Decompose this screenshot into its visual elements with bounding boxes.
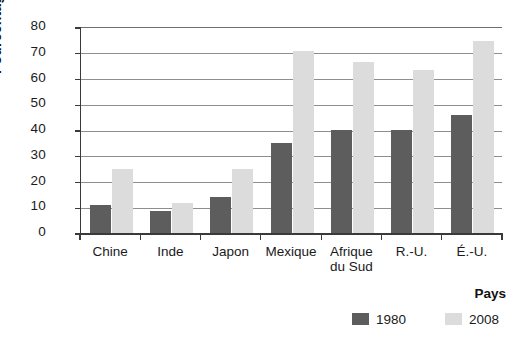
x-category-label: Japon	[201, 244, 261, 259]
x-tick	[441, 233, 442, 240]
y-tick-50	[75, 105, 81, 106]
legend-title: Pays	[474, 286, 506, 301]
y-tick-label-50: 50	[6, 95, 46, 110]
y-tick-label-20: 20	[6, 173, 46, 188]
x-tick	[79, 233, 80, 240]
y-tick-label-70: 70	[6, 44, 46, 59]
y-tick-label-0: 0	[6, 224, 46, 239]
x-category-label: R.-U.	[381, 244, 441, 259]
x-category-label: Mexique	[261, 244, 321, 259]
bar-group	[331, 28, 374, 233]
y-tick-10	[75, 208, 81, 209]
y-tick-label-60: 60	[6, 70, 46, 85]
chart-legend: Pays 1980 2008	[340, 286, 520, 344]
legend-label-1980: 1980	[376, 312, 406, 327]
x-tick	[321, 233, 322, 240]
bar-group	[271, 28, 314, 233]
y-tick-label-30: 30	[6, 147, 46, 162]
x-tick	[200, 233, 201, 240]
legend-item-1980[interactable]: 1980	[352, 310, 406, 328]
bar	[232, 169, 253, 233]
bar	[473, 41, 494, 233]
bar-chart: Pourcentage (%) 01020304050607080 ChineI…	[0, 0, 528, 348]
bar-group	[210, 28, 253, 233]
legend-label-2008: 2008	[469, 312, 499, 327]
y-tick-40	[75, 130, 81, 131]
y-tick-label-80: 80	[6, 18, 46, 33]
bar	[112, 169, 133, 233]
x-category-label: Inde	[140, 244, 200, 259]
y-tick-80	[75, 27, 81, 28]
legend-swatch-2008-icon	[445, 313, 462, 325]
bar-group	[451, 28, 494, 233]
x-category-label: É.-U.	[442, 244, 502, 259]
x-tick	[140, 233, 141, 240]
bar-group	[391, 28, 434, 233]
bar	[271, 143, 292, 233]
x-category-label: Afrique du Sud	[321, 244, 381, 274]
legend-swatch-1980-icon	[352, 313, 369, 325]
y-tick-label-10: 10	[6, 198, 46, 213]
bar	[210, 197, 231, 233]
y-tick-70	[75, 53, 81, 54]
bar-group	[90, 28, 133, 233]
bar	[293, 51, 314, 233]
plot-area	[80, 27, 502, 233]
bar-group	[150, 28, 193, 233]
bar	[391, 130, 412, 233]
bar	[413, 70, 434, 234]
x-tick	[501, 233, 502, 240]
y-tick-label-40: 40	[6, 121, 46, 136]
y-axis-tick-labels: 01020304050607080	[0, 0, 80, 348]
y-tick-30	[75, 156, 81, 157]
bar	[172, 203, 193, 233]
bar	[451, 115, 472, 233]
x-tick	[381, 233, 382, 240]
bar	[150, 211, 171, 233]
x-category-label: Chine	[80, 244, 140, 259]
x-tick	[260, 233, 261, 240]
bar	[90, 205, 111, 233]
gridline-0	[81, 233, 502, 234]
y-tick-20	[75, 182, 81, 183]
bar	[353, 62, 374, 233]
legend-item-2008[interactable]: 2008	[445, 310, 499, 328]
bar	[331, 130, 352, 233]
y-tick-60	[75, 79, 81, 80]
